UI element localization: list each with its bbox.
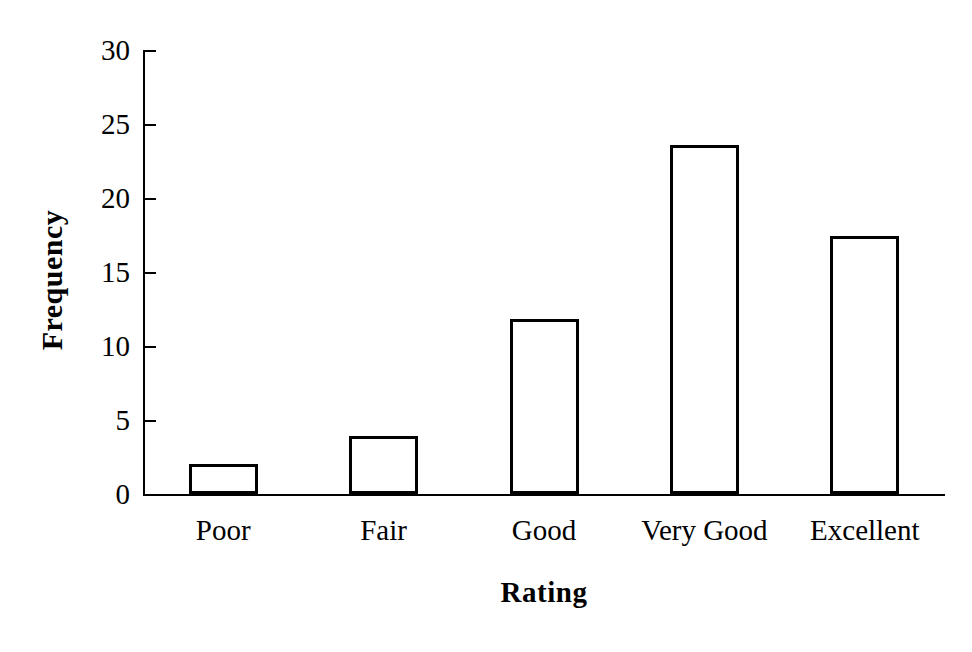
y-axis-tick: [145, 50, 156, 52]
bar: [670, 145, 739, 494]
x-axis-tick-label: Excellent: [810, 516, 920, 545]
y-axis-tick-label: 30: [70, 36, 130, 65]
x-axis-tick-labels: PoorFairGoodVery GoodExcellent: [143, 516, 945, 560]
x-axis-tick-label: Poor: [196, 516, 251, 545]
x-axis-tick-label: Good: [512, 516, 576, 545]
bar: [830, 236, 899, 494]
y-axis-tick: [145, 124, 156, 126]
bar: [189, 464, 258, 494]
y-axis-tick: [145, 272, 156, 274]
y-axis-tick: [145, 494, 156, 496]
x-axis-tick-label: Fair: [360, 516, 407, 545]
y-axis-tick-label: 0: [70, 480, 130, 509]
bar: [510, 319, 579, 494]
y-axis-tick-label: 15: [70, 258, 130, 287]
bar: [349, 436, 418, 494]
bar-chart: Frequency 051015202530 PoorFairGoodVery …: [0, 0, 972, 652]
x-axis-title: Rating: [143, 576, 945, 609]
x-axis-tick-label: Very Good: [641, 516, 767, 545]
y-axis-title: Frequency: [30, 30, 74, 530]
y-axis-tick-label: 20: [70, 184, 130, 213]
y-axis-tick: [145, 198, 156, 200]
y-axis-tick-label: 25: [70, 110, 130, 139]
y-axis-tick: [145, 420, 156, 422]
y-axis-tick-label: 5: [70, 406, 130, 435]
y-axis-tick-label: 10: [70, 332, 130, 361]
y-axis-tick: [145, 346, 156, 348]
x-axis-line: [143, 494, 945, 496]
plot-area: [143, 50, 945, 494]
y-axis-tick-labels: 051015202530: [75, 0, 130, 652]
